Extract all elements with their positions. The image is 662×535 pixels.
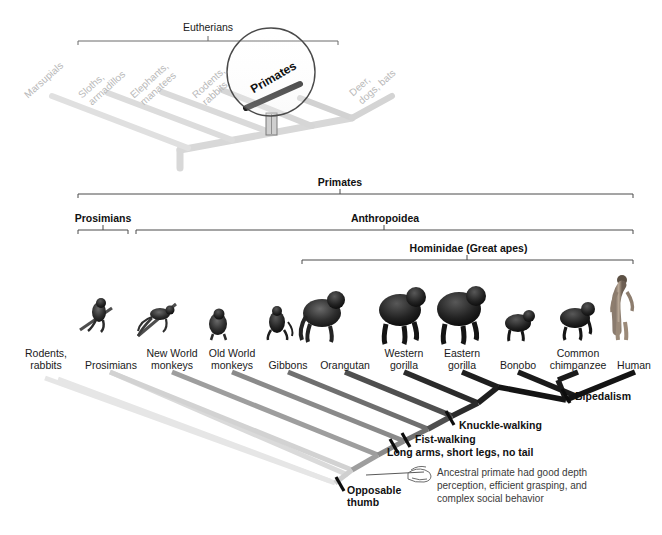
caption-line-3: complex social behavior <box>437 492 647 505</box>
primates-bracket <box>78 189 633 198</box>
ancestral-leader-line <box>366 466 431 482</box>
caption-line-2: perception, efficient grasping, and <box>437 479 647 492</box>
silhouette-prosimian <box>80 298 112 332</box>
silhouette-western-gorilla <box>379 287 426 344</box>
caption-line-1: Ancestral primate had good depth <box>437 466 647 479</box>
animal-silhouettes <box>80 275 632 344</box>
trait-label-fist-walking: Fist-walking <box>415 433 476 445</box>
hominidae-bracket <box>302 255 633 264</box>
anthropoidea-bracket <box>136 225 633 234</box>
silhouette-gibbon <box>268 306 293 340</box>
trait-label-thumb: thumb <box>347 496 379 508</box>
silhouette-human <box>612 275 633 340</box>
silhouette-new-world-monkey <box>138 304 176 336</box>
bracket-label-anthropoidea: Anthropoidea <box>340 212 430 224</box>
silhouette-bonobo <box>505 310 535 341</box>
silhouette-old-world-monkey <box>209 309 227 341</box>
bracket-label-prosimians: Prosimians <box>63 212 143 224</box>
silhouette-common-chimpanzee <box>560 302 595 340</box>
bracket-label-primates: Primates <box>300 176 380 188</box>
trait-label-long-arms: Long arms, short legs, no tail <box>387 446 533 458</box>
bracket-label-hominidae: Hominidae (Great apes) <box>396 242 541 254</box>
eutherians-bracket-label: Eutherians <box>168 22 248 34</box>
tip-line-1: Human <box>606 360 662 372</box>
tip-label-human: Human <box>606 360 662 372</box>
figure-canvas: Marsupials Sloths, armadillos Elephants,… <box>0 0 662 535</box>
prosimians-bracket <box>78 225 128 234</box>
trait-label-opposable: Opposable <box>347 484 401 496</box>
tip-label-rodents-rabbits: Rodents, rabbits <box>10 348 82 371</box>
hand-icon <box>408 466 431 482</box>
tip-line-1: Old World <box>196 348 268 360</box>
trait-label-bipedalism: Bipedalism <box>575 390 631 402</box>
tip-line-1: Common <box>538 348 618 360</box>
ancestral-primate-caption: Ancestral primate had good depth percept… <box>437 466 647 505</box>
silhouette-eastern-gorilla <box>437 286 486 344</box>
silhouette-orangutan <box>301 291 345 342</box>
tip-line-1: Eastern <box>426 348 498 360</box>
tip-line-1: Rodents, <box>10 348 82 360</box>
tip-line-2: rabbits <box>10 360 82 372</box>
trait-label-knuckle-walking: Knuckle-walking <box>459 419 542 431</box>
